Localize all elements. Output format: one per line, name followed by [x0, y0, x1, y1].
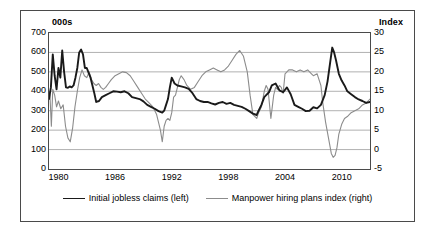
chart-figure: 000s Index 0100200300400500600700 -50510… [20, 10, 415, 222]
left-tick-label: 200 [22, 125, 46, 134]
chart-legend: Initial jobless claims (left)Manpower hi… [21, 193, 414, 203]
right-tick-label: 5 [374, 125, 400, 134]
left-axis-unit-label: 000s [52, 17, 72, 27]
plot-svg [49, 33, 370, 169]
right-axis-unit-label: Index [379, 17, 403, 27]
left-tick-label: 500 [22, 67, 46, 76]
right-tick-label: -5 [374, 164, 400, 173]
right-tick-label: 25 [374, 47, 400, 56]
x-tick-label: 1986 [95, 173, 135, 182]
left-tick-label: 0 [22, 164, 46, 173]
right-tick-label: 20 [374, 67, 400, 76]
legend-entry: Manpower hiring plans index (right) [206, 193, 373, 203]
series-line-claims [49, 48, 370, 115]
legend-label: Initial jobless claims (left) [89, 193, 189, 203]
right-tick-label: 10 [374, 106, 400, 115]
left-tick-label: 400 [22, 86, 46, 95]
legend-label: Manpower hiring plans index (right) [232, 193, 373, 203]
x-tick-label: 2004 [265, 173, 305, 182]
line-sample-grey-icon [206, 198, 228, 199]
x-tick-label: 1992 [152, 173, 192, 182]
left-tick-label: 100 [22, 145, 46, 154]
line-sample-black-icon [63, 198, 85, 199]
right-tick-label: 0 [374, 145, 400, 154]
right-tick-label: 30 [374, 28, 400, 37]
x-tick-label: 1980 [38, 173, 78, 182]
left-tick-label: 300 [22, 106, 46, 115]
left-tick-label: 700 [22, 28, 46, 37]
left-tick-label: 600 [22, 47, 46, 56]
x-tick-label: 2010 [322, 173, 362, 182]
right-tick-label: 15 [374, 86, 400, 95]
plot-area [48, 32, 371, 170]
series-lines [49, 48, 370, 158]
legend-entry: Initial jobless claims (left) [63, 193, 189, 203]
x-tick-label: 1998 [208, 173, 248, 182]
